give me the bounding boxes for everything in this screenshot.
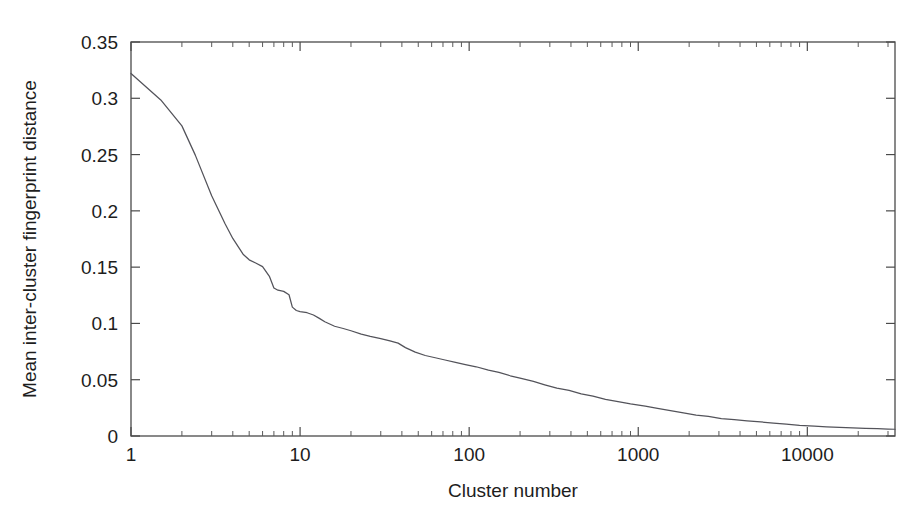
y-tick-label: 0 xyxy=(107,426,118,447)
chart-figure: 110100100010000 00.050.10.150.20.250.30.… xyxy=(0,0,924,524)
y-tick-label: 0.25 xyxy=(81,145,118,166)
x-tick-label: 10 xyxy=(290,444,311,465)
x-tick-label: 100 xyxy=(453,444,485,465)
y-tick-label: 0.3 xyxy=(92,88,118,109)
y-tick-label: 0.2 xyxy=(92,201,118,222)
y-tick-label: 0.35 xyxy=(81,32,118,53)
x-tick-label: 1000 xyxy=(617,444,659,465)
x-tick-label: 1 xyxy=(126,444,137,465)
series-line xyxy=(131,74,895,430)
data-series-curve xyxy=(131,74,895,430)
y-axis-title: Mean inter-cluster fingerprint distance xyxy=(19,80,40,398)
x-axis-ticks xyxy=(131,42,888,436)
y-tick-label: 0.05 xyxy=(81,370,118,391)
x-axis-tick-labels: 110100100010000 xyxy=(126,444,834,465)
x-tick-label: 10000 xyxy=(781,444,834,465)
y-tick-label: 0.15 xyxy=(81,257,118,278)
y-tick-label: 0.1 xyxy=(92,313,118,334)
line-chart: 110100100010000 00.050.10.150.20.250.30.… xyxy=(0,0,924,524)
y-axis-tick-labels: 00.050.10.150.20.250.30.35 xyxy=(81,32,118,447)
x-axis-title: Cluster number xyxy=(448,480,579,501)
